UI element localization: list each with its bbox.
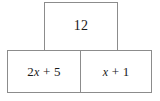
bottom-left-operator: + (43, 64, 51, 79)
bar-model-top-box: 12 (44, 2, 118, 51)
bottom-right-constant: 1 (123, 64, 130, 79)
bar-model-bottom-left-box: 2x + 5 (7, 50, 81, 93)
top-box-label: 12 (74, 19, 88, 34)
bar-model-diagram: 12 2x + 5 x + 1 (0, 0, 160, 101)
bottom-left-constant: 5 (54, 64, 61, 79)
bottom-right-box-label: x + 1 (103, 65, 130, 78)
bar-model-bottom-right-box: x + 1 (80, 50, 152, 93)
bottom-left-coefficient: 2 (27, 64, 34, 79)
bottom-left-box-label: 2x + 5 (27, 65, 60, 78)
